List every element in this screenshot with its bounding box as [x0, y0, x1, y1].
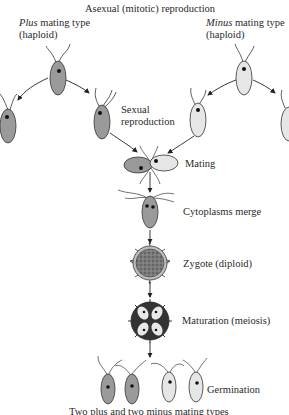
arrow-minus-right [253, 80, 275, 93]
minus-italic: Minus [206, 17, 232, 28]
germinated-minus-cell-2 [183, 358, 207, 402]
meiosis-cell [128, 299, 172, 343]
arrow-minus-left [208, 80, 236, 95]
step-label-germination: Germination [207, 384, 260, 396]
sexual-line1: Sexual [121, 104, 150, 115]
minus-parent-cell [235, 44, 254, 95]
minus-haploid: (haploid) [206, 29, 245, 40]
title-label: Asexual (mitotic) reproduction [85, 3, 215, 15]
step-label-maturation: Maturation (meiosis) [182, 315, 270, 327]
plus-rest: mating type [38, 17, 91, 28]
step-label-cytoplasms-merge: Cytoplasms merge [183, 206, 261, 218]
sexual-reproduction-label: Sexual reproduction [121, 104, 175, 128]
caption-label: Two plus and two minus mating types [69, 406, 229, 415]
arrow-minus-to-mating [168, 136, 194, 153]
plus-italic: Plus [19, 17, 38, 28]
germinated-plus-cell-1 [98, 356, 122, 404]
minus-mating-type-label: Minus mating type (haploid) [206, 17, 285, 41]
merged-cell [118, 190, 174, 228]
plus-mating-type-label: Plus mating type (haploid) [19, 17, 90, 41]
arrow-plus-right [66, 80, 89, 93]
step-label-zygote: Zygote (diploid) [183, 258, 252, 270]
plus-daughter-right [94, 88, 116, 139]
arrow-plus-left [18, 78, 48, 100]
zygote-cell [130, 243, 170, 283]
minus-daughter-right [281, 90, 289, 141]
minus-daughter-left [190, 88, 206, 137]
arrow-plus-to-mating [110, 133, 137, 152]
plus-daughter-left [0, 94, 17, 143]
sexual-line2: reproduction [121, 116, 175, 127]
plus-parent-cell [46, 44, 70, 95]
minus-rest: mating type [232, 17, 285, 28]
step-label-mating: Mating [185, 158, 215, 170]
germinated-minus-cell-1 [151, 363, 184, 402]
plus-haploid: (haploid) [19, 29, 58, 40]
germinated-plus-cell-2 [115, 360, 146, 404]
